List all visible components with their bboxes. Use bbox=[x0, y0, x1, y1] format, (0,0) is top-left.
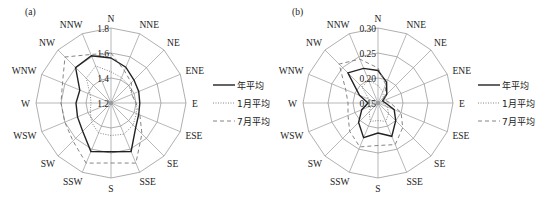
radial-tick-label: 0.20 bbox=[359, 74, 376, 84]
legend-label: 7月平均 bbox=[502, 116, 535, 127]
grid-spoke bbox=[111, 50, 164, 103]
direction-label-wsw: WSW bbox=[13, 131, 36, 141]
direction-label-nw: NW bbox=[39, 38, 55, 48]
direction-label-sw: SW bbox=[308, 159, 322, 169]
radial-tick-label: 1.2 bbox=[97, 99, 109, 109]
grid-spoke bbox=[111, 103, 164, 156]
direction-label-sse: SSE bbox=[140, 177, 157, 187]
radial-tick-label: 1.8 bbox=[97, 24, 109, 34]
direction-label-w: W bbox=[288, 99, 297, 109]
direction-label-wsw: WSW bbox=[280, 131, 303, 141]
direction-label-ene: ENE bbox=[186, 66, 205, 76]
legend-label: 1月平均 bbox=[502, 98, 535, 109]
direction-label-w: W bbox=[21, 99, 30, 109]
radar-chart-b: 0.150.200.250.30NNNENEENEEESESESSESSSWSW… bbox=[279, 7, 535, 194]
grid-spoke bbox=[378, 103, 431, 156]
center-dot bbox=[109, 101, 113, 105]
direction-label-s: S bbox=[375, 184, 380, 194]
direction-label-wnw: WNW bbox=[279, 66, 304, 76]
direction-label-sw: SW bbox=[41, 159, 55, 169]
direction-label-ne: NE bbox=[167, 38, 180, 48]
grid-spoke bbox=[58, 103, 111, 156]
direction-label-ese: ESE bbox=[453, 131, 470, 141]
direction-label-se: SE bbox=[167, 159, 178, 169]
direction-label-e: E bbox=[459, 99, 465, 109]
direction-label-ssw: SSW bbox=[330, 177, 350, 187]
panel-label: (a) bbox=[25, 7, 36, 18]
direction-label-nnw: NNW bbox=[327, 20, 350, 30]
direction-label-ssw: SSW bbox=[63, 177, 83, 187]
direction-label-n: N bbox=[375, 14, 382, 24]
center-dot bbox=[376, 101, 380, 105]
direction-label-nne: NNE bbox=[140, 20, 160, 30]
direction-label-nne: NNE bbox=[407, 20, 427, 30]
direction-label-se: SE bbox=[434, 159, 445, 169]
legend-label: 年平均 bbox=[237, 80, 264, 91]
direction-label-ene: ENE bbox=[453, 66, 472, 76]
legend-label: 7月平均 bbox=[237, 116, 270, 127]
radial-tick-label: 0.25 bbox=[359, 49, 376, 59]
direction-label-sse: SSE bbox=[407, 177, 424, 187]
panel-label: (b) bbox=[292, 7, 303, 18]
direction-label-ne: NE bbox=[434, 38, 447, 48]
direction-label-nnw: NNW bbox=[60, 20, 83, 30]
radial-tick-label: 1.4 bbox=[97, 74, 109, 84]
direction-label-nw: NW bbox=[306, 38, 322, 48]
grid-spoke bbox=[325, 103, 378, 156]
direction-label-e: E bbox=[192, 99, 198, 109]
direction-label-wnw: WNW bbox=[12, 66, 37, 76]
legend-label: 年平均 bbox=[502, 80, 529, 91]
direction-label-ese: ESE bbox=[186, 131, 203, 141]
legend: 年平均1月平均7月平均 bbox=[478, 80, 535, 127]
direction-label-s: S bbox=[108, 184, 113, 194]
legend-label: 1月平均 bbox=[237, 98, 270, 109]
direction-label-n: N bbox=[108, 14, 115, 24]
legend: 年平均1月平均7月平均 bbox=[213, 80, 270, 127]
radial-tick-label: 0.15 bbox=[359, 99, 376, 109]
radar-chart-a: 1.21.41.61.8NNNENEENEEESESESSESSSWSWWSWW… bbox=[12, 7, 270, 194]
wind-radar-charts: 1.21.41.61.8NNNENEENEEESESESSESSSWSWWSWW… bbox=[0, 0, 544, 205]
radial-tick-label: 1.6 bbox=[97, 49, 109, 59]
radial-tick-label: 0.30 bbox=[359, 24, 376, 34]
